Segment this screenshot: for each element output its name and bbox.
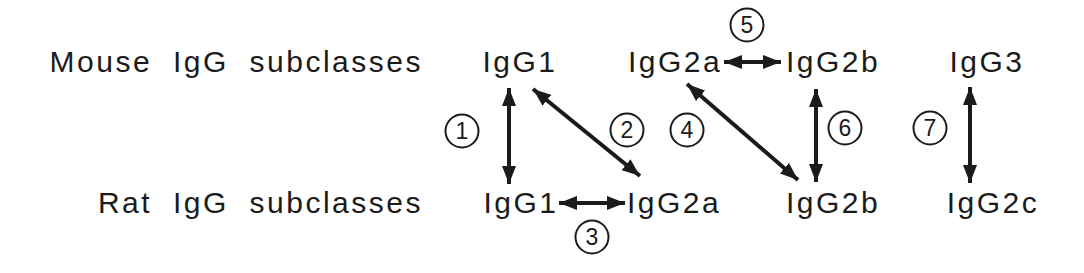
connection-2-badge: 2 <box>610 113 645 148</box>
rat-row-label: Rat IgG subclasses <box>40 187 423 219</box>
connection-1-number: 1 <box>456 120 469 143</box>
node-rat-igg2c: IgG2c <box>947 187 1040 219</box>
connection-5-badge: 5 <box>730 8 765 43</box>
node-rat-igg1: IgG1 <box>483 187 558 219</box>
connection-3-badge: 3 <box>575 220 610 255</box>
connection-1-badge: 1 <box>445 114 480 149</box>
mouse-row-label: Mouse IgG subclasses <box>40 46 423 78</box>
igg-subclass-correspondence-diagram: Mouse IgG subclasses Rat IgG subclasses … <box>0 0 1084 273</box>
connection-6-badge: 6 <box>828 111 863 146</box>
node-rat-igg2b: IgG2b <box>786 187 880 219</box>
connection-2-number: 2 <box>621 119 634 142</box>
node-mouse-igg3: IgG3 <box>949 46 1024 78</box>
node-mouse-igg1: IgG1 <box>482 46 557 78</box>
connection-6-number: 6 <box>839 117 852 140</box>
connection-4-badge: 4 <box>670 113 705 148</box>
connection-7-number: 7 <box>924 117 937 140</box>
connection-3-number: 3 <box>586 226 599 249</box>
connection-4-number: 4 <box>681 119 694 142</box>
connection-5-number: 5 <box>741 14 754 37</box>
node-rat-igg2a: IgG2a <box>627 187 721 219</box>
connection-7-badge: 7 <box>913 111 948 146</box>
node-mouse-igg2b: IgG2b <box>786 46 880 78</box>
node-mouse-igg2a: IgG2a <box>628 46 722 78</box>
